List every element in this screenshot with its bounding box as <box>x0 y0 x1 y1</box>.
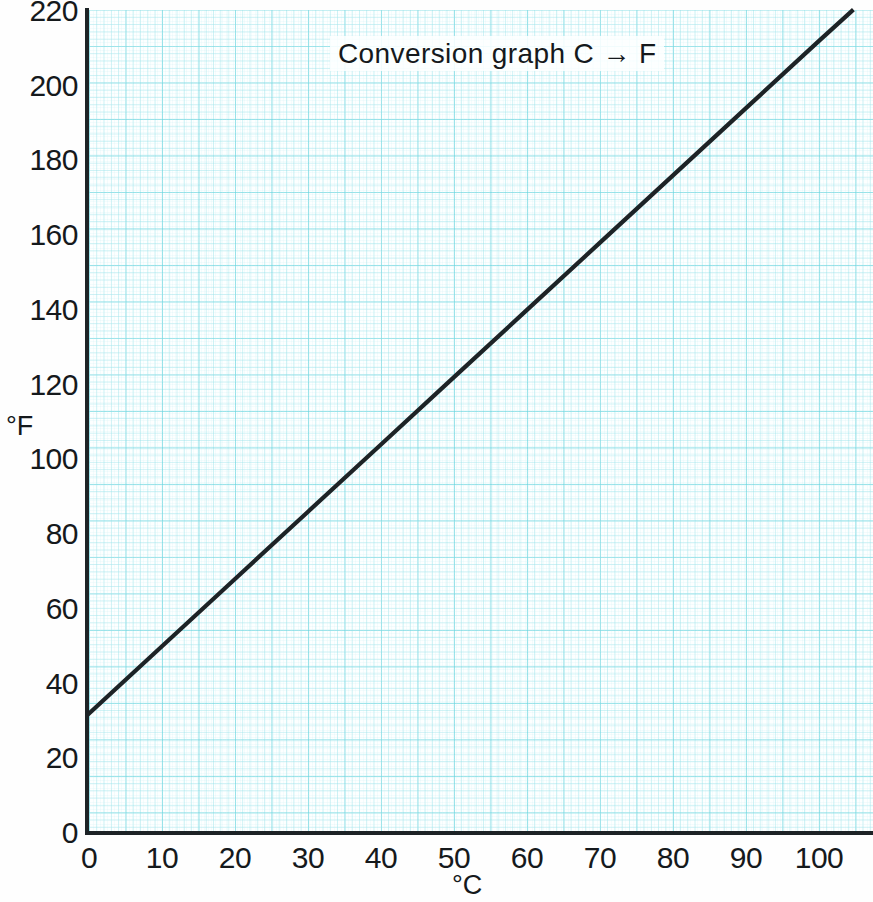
y-axis-line <box>85 8 89 835</box>
x-tick-label: 50 <box>419 843 489 873</box>
y-tick-label: 60 <box>0 594 78 624</box>
graph-paper-grain <box>89 10 873 833</box>
plot-area <box>89 10 873 833</box>
conversion-graph-figure: Conversion graph C → F °F °C 02040608010… <box>0 0 873 902</box>
x-tick-label: 40 <box>346 843 416 873</box>
x-tick-label: 60 <box>492 843 562 873</box>
y-axis-title: °F <box>6 413 33 440</box>
x-tick-label: 20 <box>200 843 270 873</box>
y-tick-label: 200 <box>0 71 78 101</box>
y-tick-label: 100 <box>0 444 78 474</box>
chart-title: Conversion graph C → F <box>330 36 664 71</box>
y-tick-label: 220 <box>0 0 78 26</box>
x-axis-title: °C <box>452 872 482 899</box>
x-tick-label: 30 <box>273 843 343 873</box>
x-tick-label: 70 <box>565 843 635 873</box>
x-tick-label: 90 <box>711 843 781 873</box>
x-tick-label: 10 <box>127 843 197 873</box>
y-tick-label: 180 <box>0 145 78 175</box>
y-tick-label: 120 <box>0 370 78 400</box>
x-tick-label: 100 <box>784 843 854 873</box>
y-tick-label: 140 <box>0 295 78 325</box>
y-tick-label: 20 <box>0 743 78 773</box>
x-axis-line <box>85 831 873 835</box>
y-tick-label: 160 <box>0 220 78 250</box>
x-tick-label: 0 <box>54 843 124 873</box>
y-tick-label: 80 <box>0 519 78 549</box>
y-tick-label: 40 <box>0 669 78 699</box>
x-tick-label: 80 <box>638 843 708 873</box>
